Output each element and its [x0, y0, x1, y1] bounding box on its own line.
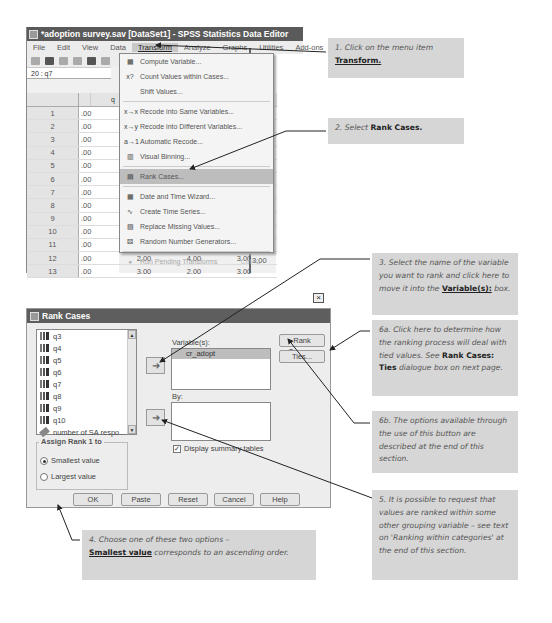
cell[interactable]: .00: [79, 252, 119, 264]
menu-item-replace-missing[interactable]: ▧Replace Missing Values...: [120, 219, 273, 234]
cell[interactable]: .00: [79, 133, 119, 145]
row-number[interactable]: 13: [27, 265, 79, 277]
ties-button[interactable]: Ties...: [279, 350, 325, 363]
radio-selected-icon: [40, 457, 48, 465]
move-to-variables-button[interactable]: ➜: [146, 357, 165, 374]
cell[interactable]: .00: [79, 147, 119, 159]
menu-item-random-number-generators[interactable]: ⚄Random Number Generators...: [120, 234, 273, 249]
variables-list[interactable]: cr_adopt: [171, 348, 271, 390]
arrow-right-icon: ➜: [152, 412, 160, 423]
list-item[interactable]: q3: [37, 330, 136, 342]
cell[interactable]: .00: [79, 107, 119, 119]
print-icon[interactable]: [59, 57, 68, 65]
menu-item-shift-values[interactable]: Shift Values...: [120, 84, 273, 99]
menu-item-visual-binning[interactable]: ▥Visual Binning...: [120, 149, 273, 164]
list-item[interactable]: q7: [37, 378, 136, 390]
rank-types-button[interactable]: Rank Types...: [279, 334, 325, 347]
cell[interactable]: .00: [79, 239, 119, 251]
row-number[interactable]: 3: [27, 133, 79, 145]
row-number[interactable]: 12: [27, 252, 79, 264]
undo-icon[interactable]: [87, 57, 96, 65]
list-item[interactable]: q4: [37, 342, 136, 354]
menu-utilities[interactable]: Utilities: [253, 43, 289, 52]
rank-cases-icon: ▤: [124, 173, 136, 181]
menu-separator: [123, 101, 270, 102]
menu-view[interactable]: View: [76, 43, 104, 52]
scale-variable-icon: [40, 392, 49, 400]
callout-step-2: 2. Select Rank Cases.: [328, 118, 464, 144]
list-item[interactable]: cr_adopt: [172, 349, 270, 359]
row-number[interactable]: 11: [27, 239, 79, 251]
smallest-value-radio[interactable]: Smallest value: [40, 456, 100, 465]
scroll-down-icon[interactable]: ▼: [128, 425, 136, 434]
paste-button[interactable]: Paste: [121, 493, 161, 506]
ok-button[interactable]: OK: [73, 493, 113, 506]
cell[interactable]: .00: [79, 265, 119, 277]
row-number[interactable]: 9: [27, 213, 79, 225]
random-number-icon: ⚄: [124, 238, 136, 246]
row-number[interactable]: 7: [27, 186, 79, 198]
callout-step-5: 5. It is possible to request that values…: [372, 490, 518, 580]
reset-button[interactable]: Reset: [168, 493, 208, 506]
menu-graphs[interactable]: Graphs: [217, 43, 254, 52]
list-scrollbar[interactable]: ▲ ▼: [127, 330, 136, 434]
row-number[interactable]: 10: [27, 226, 79, 238]
list-item[interactable]: q6: [37, 366, 136, 378]
menu-addons[interactable]: Add-ons: [289, 43, 329, 52]
help-button[interactable]: Help: [260, 493, 300, 506]
cell[interactable]: .00: [79, 226, 119, 238]
list-item[interactable]: q5: [37, 354, 136, 366]
menu-item-recode-same[interactable]: x→xRecode into Same Variables...: [120, 104, 273, 119]
menu-data[interactable]: Data: [104, 43, 132, 52]
menu-item-count-values[interactable]: x?Count Values within Cases...: [120, 69, 273, 84]
menu-item-create-time-series[interactable]: ∿Create Time Series...: [120, 204, 273, 219]
close-button[interactable]: ×: [313, 293, 324, 303]
row-number[interactable]: 8: [27, 199, 79, 211]
visual-binning-icon: ▥: [124, 153, 136, 161]
largest-value-radio[interactable]: Largest value: [40, 472, 96, 481]
move-to-by-button[interactable]: ➜: [146, 409, 165, 426]
editor-title: *adoption survey.sav [DataSet1] - SPSS S…: [41, 29, 288, 39]
cell[interactable]: .00: [79, 173, 119, 185]
callout-step-6b: 6b. The options available through the us…: [372, 411, 518, 473]
scale-variable-icon: [40, 356, 49, 364]
menu-item-recode-different[interactable]: x→yRecode into Different Variables...: [120, 119, 273, 134]
column-header[interactable]: q: [91, 93, 115, 106]
list-item[interactable]: q10: [37, 414, 136, 426]
cell[interactable]: .00: [79, 160, 119, 172]
menu-item-date-time-wizard[interactable]: ▦Date and Time Wizard...: [120, 189, 273, 204]
scroll-up-icon[interactable]: ▲: [128, 330, 136, 339]
menu-transform[interactable]: Transform: [132, 43, 178, 52]
cell[interactable]: .00: [79, 213, 119, 225]
menu-item-compute-variable[interactable]: ▦Compute Variable...: [120, 54, 273, 69]
cell[interactable]: .00: [79, 120, 119, 132]
row-number[interactable]: 6: [27, 173, 79, 185]
row-number[interactable]: 4: [27, 147, 79, 159]
list-item[interactable]: q9: [37, 402, 136, 414]
cancel-button[interactable]: Cancel: [214, 493, 254, 506]
menu-analyze[interactable]: Analyze: [178, 43, 217, 52]
by-list[interactable]: [171, 402, 271, 441]
cell[interactable]: .00: [79, 186, 119, 198]
source-variable-list[interactable]: q3 q4 q5 q6 q7 q8 q9 q10 number of SA re…: [36, 329, 137, 435]
row-number[interactable]: 5: [27, 160, 79, 172]
cell-reference: 20 : q7: [27, 67, 111, 79]
menu-file[interactable]: File: [27, 43, 51, 52]
list-item[interactable]: q8: [37, 390, 136, 402]
ruler-icon: [39, 427, 50, 437]
display-summary-checkbox[interactable]: ✓ Display summary tables: [173, 444, 264, 453]
callout-step-3: 3. Select the name of the variable you w…: [372, 253, 518, 315]
menu-item-rank-cases[interactable]: ▤Rank Cases...: [120, 169, 273, 184]
row-number[interactable]: 1: [27, 107, 79, 119]
menu-edit[interactable]: Edit: [51, 43, 76, 52]
save-icon[interactable]: [45, 57, 54, 65]
row-number[interactable]: 2: [27, 120, 79, 132]
replace-missing-icon: ▧: [124, 223, 136, 231]
automatic-recode-icon: a→1: [124, 138, 136, 145]
dialog-recall-icon[interactable]: [73, 57, 82, 65]
cell[interactable]: .00: [79, 199, 119, 211]
menu-item-automatic-recode[interactable]: a→1Automatic Recode...: [120, 134, 273, 149]
redo-icon[interactable]: [101, 57, 110, 65]
open-icon[interactable]: [31, 57, 40, 65]
assign-rank-legend: Assign Rank 1 to: [39, 437, 104, 446]
